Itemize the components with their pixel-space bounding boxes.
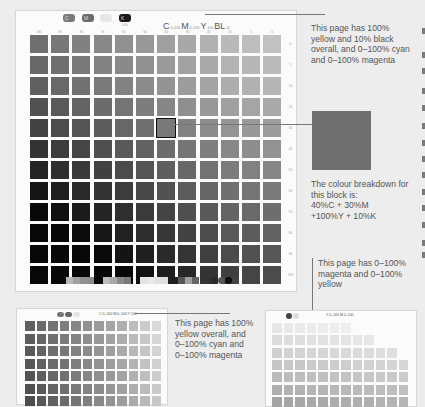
thumb-cell xyxy=(37,384,47,394)
thumb-cell xyxy=(295,397,305,407)
colour-cell xyxy=(200,245,218,263)
thumb-cell xyxy=(318,372,328,382)
footer-swatch xyxy=(154,277,161,284)
thumb-cell xyxy=(129,321,139,331)
thumb-cell xyxy=(71,371,81,381)
colour-cell xyxy=(136,182,154,200)
colour-cell xyxy=(72,161,90,179)
thumb-cell xyxy=(117,371,127,381)
thumb-cell xyxy=(71,321,81,331)
colour-cell xyxy=(30,140,48,158)
column-label: 90 xyxy=(51,30,69,34)
thumb-cell xyxy=(330,348,340,358)
thumb-cell xyxy=(272,385,282,395)
colour-cell xyxy=(136,35,154,53)
thumb-cell xyxy=(399,397,409,407)
column-label: 5 xyxy=(242,30,260,34)
colour-cell xyxy=(51,56,69,74)
colour-cell xyxy=(136,56,154,74)
colour-cell xyxy=(263,266,281,284)
colour-cell xyxy=(136,98,154,116)
thumb-cell xyxy=(295,360,305,370)
thumb-cell xyxy=(129,346,139,356)
footer-swatch xyxy=(192,277,199,284)
colour-cell xyxy=(30,203,48,221)
footer-swatch xyxy=(140,277,147,284)
thumb-cell xyxy=(376,372,386,382)
thumb-cell xyxy=(364,397,374,407)
colour-cell xyxy=(136,140,154,158)
thumb-cell xyxy=(117,396,127,406)
thumb-cell xyxy=(307,348,317,358)
thumb-cell xyxy=(307,385,317,395)
colour-cell xyxy=(221,203,239,221)
colour-cell xyxy=(200,98,218,116)
colour-cell xyxy=(200,203,218,221)
colour-cell xyxy=(157,77,175,95)
thumb-left-formula: C 0–100 M 0–100 Y 100 xyxy=(99,312,137,316)
colour-cell xyxy=(178,56,196,74)
thumb-cell xyxy=(387,372,397,382)
thumb-cell xyxy=(330,372,340,382)
colour-cell xyxy=(94,245,112,263)
column-label: 100 xyxy=(30,30,48,34)
footer-swatch xyxy=(87,277,94,284)
colour-cell xyxy=(94,56,112,74)
colour-cell xyxy=(72,245,90,263)
row-label: 20 xyxy=(286,105,294,109)
thumb-cell xyxy=(376,385,386,395)
right-thumb-caption: This page has 0–100% magenta and 0–100% … xyxy=(318,258,418,290)
thumbnail-page-cyan-magenta: C 0–100 M 0–100 Y 100 xyxy=(16,308,168,405)
thumb-cell xyxy=(140,359,150,369)
thumb-cell xyxy=(83,371,93,381)
thumb-cell xyxy=(48,334,58,344)
colour-cell xyxy=(242,119,260,137)
thumb-right-formula: Y 0–100 M 0–100 xyxy=(326,313,354,317)
thumb-cell xyxy=(341,397,351,407)
highlighted-cell xyxy=(157,119,175,137)
thumb-cell xyxy=(60,321,70,331)
row-label: 80 xyxy=(286,231,294,235)
thumb-cell xyxy=(106,384,116,394)
thumb-cell xyxy=(341,385,351,395)
thumb-cell xyxy=(307,397,317,407)
colour-cell xyxy=(157,56,175,74)
colour-cell xyxy=(263,203,281,221)
channel-tab-label: K xyxy=(121,15,124,21)
colour-cell xyxy=(30,161,48,179)
colour-cell xyxy=(157,182,175,200)
thumb-cell xyxy=(60,334,70,344)
thumb-cell xyxy=(295,348,305,358)
column-label: 60 xyxy=(115,30,133,34)
footer-swatch xyxy=(211,277,218,284)
colour-cell xyxy=(30,35,48,53)
colour-cell xyxy=(221,161,239,179)
colour-cell xyxy=(263,119,281,137)
colour-cell xyxy=(72,35,90,53)
thumb-cell xyxy=(129,371,139,381)
column-label: 50 xyxy=(136,30,154,34)
thumb-cell xyxy=(399,385,409,395)
thumb-cell xyxy=(330,385,340,395)
colour-cell xyxy=(263,245,281,263)
thumb-cell xyxy=(387,397,397,407)
column-label: 30 xyxy=(178,30,196,34)
thumb-cell xyxy=(37,346,47,356)
thumb-cell xyxy=(140,321,150,331)
thumbnail-page-magenta-yellow: Y 0–100 M 0–100 xyxy=(265,310,417,407)
colour-cell xyxy=(221,98,239,116)
colour-cell xyxy=(136,161,154,179)
thumb-cell xyxy=(140,396,150,406)
colour-cell xyxy=(51,140,69,158)
colour-cell xyxy=(94,77,112,95)
thumb-cell xyxy=(106,346,116,356)
thumb-channel-tab xyxy=(73,312,80,317)
colour-cell xyxy=(157,224,175,242)
colour-cell xyxy=(51,224,69,242)
thumb-cell xyxy=(341,372,351,382)
colour-cell xyxy=(94,224,112,242)
thumb-cell xyxy=(399,372,409,382)
row-label: 5 xyxy=(286,63,294,67)
row-label: 30 xyxy=(286,126,294,130)
thumb-cell xyxy=(48,359,58,369)
